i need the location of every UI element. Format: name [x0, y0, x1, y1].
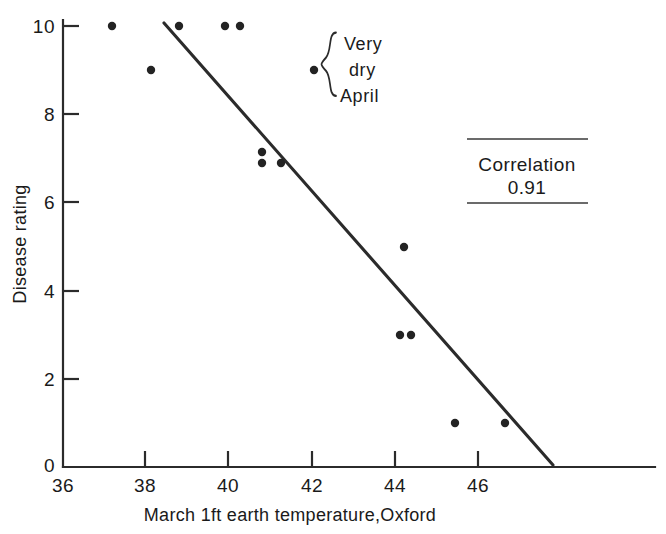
y-tick-label-8: 8 [44, 104, 55, 125]
y-tick-label-10: 10 [33, 16, 55, 37]
correlation-value: 0.91 [508, 177, 547, 198]
annotation-line-1: Very [344, 34, 382, 54]
y-tick-label-2: 2 [44, 369, 55, 390]
x-tick-label-40: 40 [217, 475, 239, 496]
x-tick-label-46: 46 [467, 475, 489, 496]
data-point [147, 66, 155, 74]
data-point [277, 159, 285, 167]
plot-canvas: 10 8 6 4 2 0 36 38 40 42 44 46 March 1ft… [0, 0, 666, 534]
x-axis-ticks [145, 451, 478, 467]
data-point [501, 419, 509, 427]
y-tick-label-6: 6 [44, 192, 55, 213]
x-tick-label-42: 42 [301, 475, 323, 496]
x-tick-label-38: 38 [134, 475, 156, 496]
data-point [258, 159, 266, 167]
y-tick-label-4: 4 [44, 281, 55, 302]
scatter-plot-figure: 10 8 6 4 2 0 36 38 40 42 44 46 March 1ft… [0, 0, 666, 534]
y-tick-label-0: 0 [44, 455, 55, 476]
curly-brace-icon [322, 33, 337, 96]
annotation-line-3: April [340, 86, 379, 106]
very-dry-april-annotation: Very dry April [322, 33, 383, 106]
data-point [400, 243, 408, 251]
data-point-group [108, 22, 509, 427]
data-point-very-dry-april [310, 66, 318, 74]
data-point [407, 331, 415, 339]
x-tick-label-44: 44 [384, 475, 406, 496]
data-point [108, 22, 116, 30]
correlation-box: Correlation 0.91 [467, 139, 588, 203]
y-axis-ticks [63, 26, 79, 379]
data-point [396, 331, 404, 339]
data-point [236, 22, 244, 30]
data-point [175, 22, 183, 30]
x-tick-label-36: 36 [52, 475, 74, 496]
data-point [451, 419, 459, 427]
data-point [221, 22, 229, 30]
annotation-line-2: dry [349, 60, 376, 80]
correlation-label: Correlation [478, 154, 575, 175]
y-axis-title: Disease rating [10, 184, 30, 303]
x-axis-title: March 1ft earth temperature,Oxford [144, 505, 436, 525]
data-point [258, 148, 266, 156]
